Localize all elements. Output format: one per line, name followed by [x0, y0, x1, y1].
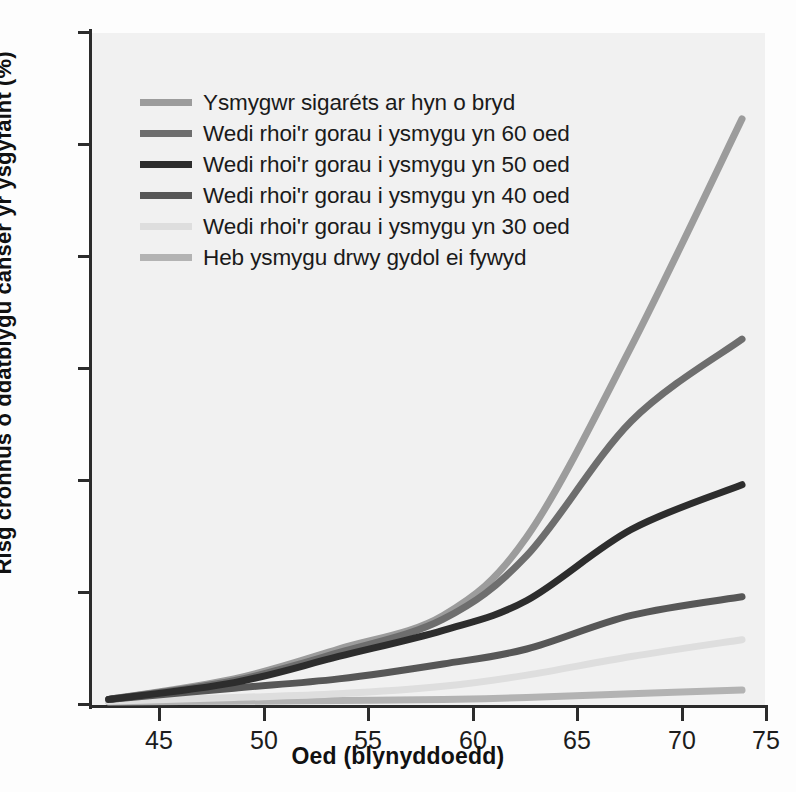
- legend-item[interactable]: Heb ysmygu drwy gydol ei fywyd: [140, 242, 570, 273]
- legend-swatch-icon: [140, 161, 192, 168]
- y-tick-mark: [78, 591, 90, 594]
- y-tick-mark: [78, 143, 90, 146]
- legend-item[interactable]: Wedi rhoi'r gorau i ysmygu yn 60 oed: [140, 118, 570, 149]
- legend-item[interactable]: Wedi rhoi'r gorau i ysmygu yn 40 oed: [140, 180, 570, 211]
- legend-item-label: Ysmygwr sigaréts ar hyn o bryd: [203, 90, 515, 116]
- legend-swatch-icon: [140, 99, 192, 106]
- legend-swatch-icon: [140, 254, 192, 261]
- y-tick-mark: [78, 31, 90, 34]
- y-tick-mark: [78, 479, 90, 482]
- legend-item-label: Heb ysmygu drwy gydol ei fywyd: [203, 245, 526, 271]
- x-axis-title: Oed (blynyddoedd): [0, 743, 796, 770]
- legend-item-label: Wedi rhoi'r gorau i ysmygu yn 40 oed: [203, 183, 570, 209]
- legend-item[interactable]: Wedi rhoi'r gorau i ysmygu yn 30 oed: [140, 211, 570, 242]
- legend-swatch-icon: [140, 130, 192, 137]
- plot-area: 0 3 6 9 12 15 18 45 50 55 60 65 70 75 Ys…: [92, 33, 765, 705]
- y-tick-mark: [78, 255, 90, 258]
- legend-item[interactable]: Wedi rhoi'r gorau i ysmygu yn 50 oed: [140, 149, 570, 180]
- x-axis-line: [89, 705, 768, 708]
- chart-page: Mae rhestr o'r holl sefydliadau sydd wed…: [0, 0, 796, 792]
- legend-swatch-icon: [140, 192, 192, 199]
- legend-item[interactable]: Ysmygwr sigaréts ar hyn o bryd: [140, 87, 570, 118]
- x-tick-mark: [263, 708, 266, 721]
- legend-item-label: Wedi rhoi'r gorau i ysmygu yn 60 oed: [203, 121, 570, 147]
- y-tick-mark: [78, 367, 90, 370]
- chart-legend: Ysmygwr sigaréts ar hyn o bryd Wedi rhoi…: [140, 87, 570, 273]
- x-tick-mark: [158, 708, 161, 721]
- y-tick-mark: [78, 703, 90, 706]
- x-tick-mark: [472, 708, 475, 721]
- legend-item-label: Wedi rhoi'r gorau i ysmygu yn 50 oed: [203, 152, 570, 178]
- x-tick-mark: [681, 708, 684, 721]
- legend-item-label: Wedi rhoi'r gorau i ysmygu yn 30 oed: [203, 214, 570, 240]
- y-axis-title: Risg cronnus o ddatblygu canser yr ysgyf…: [0, 0, 17, 633]
- x-tick-mark: [765, 708, 768, 721]
- legend-swatch-icon: [140, 223, 192, 230]
- x-tick-mark: [576, 708, 579, 721]
- x-tick-mark: [367, 708, 370, 721]
